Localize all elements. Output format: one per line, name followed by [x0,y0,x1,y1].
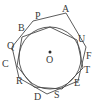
vertex-label-s: S [54,90,60,100]
vertex-label-d: D [34,92,41,102]
vertex-label-e: E [74,78,80,88]
vertex-label-a: A [62,4,69,14]
vertex-label-r: R [16,76,23,86]
vertex-label-p: P [35,11,41,21]
geometry-figure: O A P B U Q F C T R E S D [0,0,99,112]
vertex-label-c: C [2,59,9,69]
vertex-label-q: Q [7,41,14,51]
vertex-label-t: T [84,65,90,75]
vertex-label-b: B [18,23,25,33]
vertex-label-f: F [86,51,92,61]
center-point-label: O [46,55,53,65]
vertex-label-u: U [78,34,85,44]
